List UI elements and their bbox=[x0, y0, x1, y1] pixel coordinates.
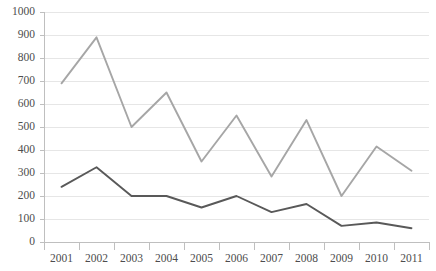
x-tick-label: 2011 bbox=[394, 253, 429, 264]
series-line-series-light bbox=[62, 37, 412, 196]
y-tick-label: 700 bbox=[0, 75, 35, 86]
gridlines bbox=[44, 13, 429, 243]
y-tick-label: 200 bbox=[0, 190, 35, 201]
y-tick-label: 600 bbox=[0, 98, 35, 109]
y-tick-label: 100 bbox=[0, 213, 35, 224]
line-chart: 01002003004005006007008009001000 2001200… bbox=[0, 0, 436, 271]
x-tick-label: 2003 bbox=[114, 253, 149, 264]
data-series-layer bbox=[62, 37, 412, 228]
y-tick-label: 400 bbox=[0, 144, 35, 155]
y-tick-label: 800 bbox=[0, 52, 35, 63]
y-tick-label: 500 bbox=[0, 121, 35, 132]
y-tick-label: 300 bbox=[0, 167, 35, 178]
chart-plot-area bbox=[0, 0, 436, 271]
x-tick-label: 2006 bbox=[219, 253, 254, 264]
x-tick-label: 2004 bbox=[149, 253, 184, 264]
y-tick-label: 1000 bbox=[0, 6, 35, 17]
x-axis-tick-marks bbox=[40, 13, 430, 251]
x-tick-label: 2005 bbox=[184, 253, 219, 264]
x-tick-label: 2008 bbox=[289, 253, 324, 264]
y-tick-label: 0 bbox=[0, 236, 35, 247]
x-tick-label: 2007 bbox=[254, 253, 289, 264]
x-tick-label: 2010 bbox=[359, 253, 394, 264]
x-tick-label: 2001 bbox=[44, 253, 79, 264]
y-tick-label: 900 bbox=[0, 29, 35, 40]
x-tick-label: 2002 bbox=[79, 253, 114, 264]
x-tick-label: 2009 bbox=[324, 253, 359, 264]
